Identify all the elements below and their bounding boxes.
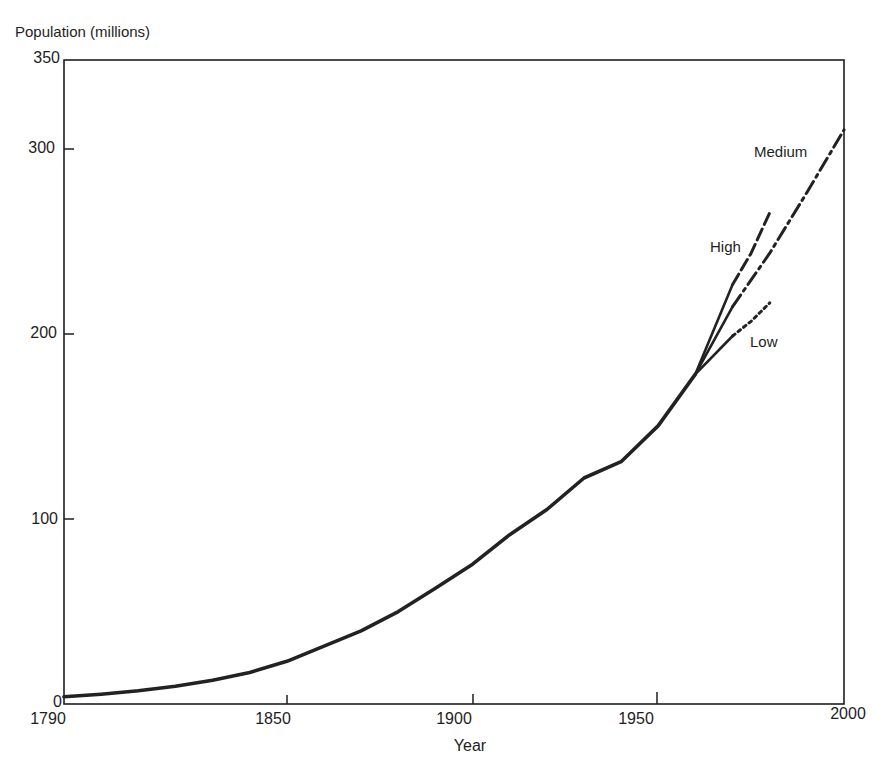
x-ticks: [287, 692, 657, 704]
chart-canvas: [0, 0, 883, 767]
series-low-projection: [733, 303, 770, 336]
series-high-projection: [733, 213, 770, 285]
series-lines: [64, 130, 844, 697]
y-ticks: [64, 149, 74, 519]
series-medium-projection: [733, 130, 844, 307]
series-high-solid: [695, 285, 732, 375]
series-historical: [64, 374, 695, 697]
plot-frame: [64, 60, 844, 704]
